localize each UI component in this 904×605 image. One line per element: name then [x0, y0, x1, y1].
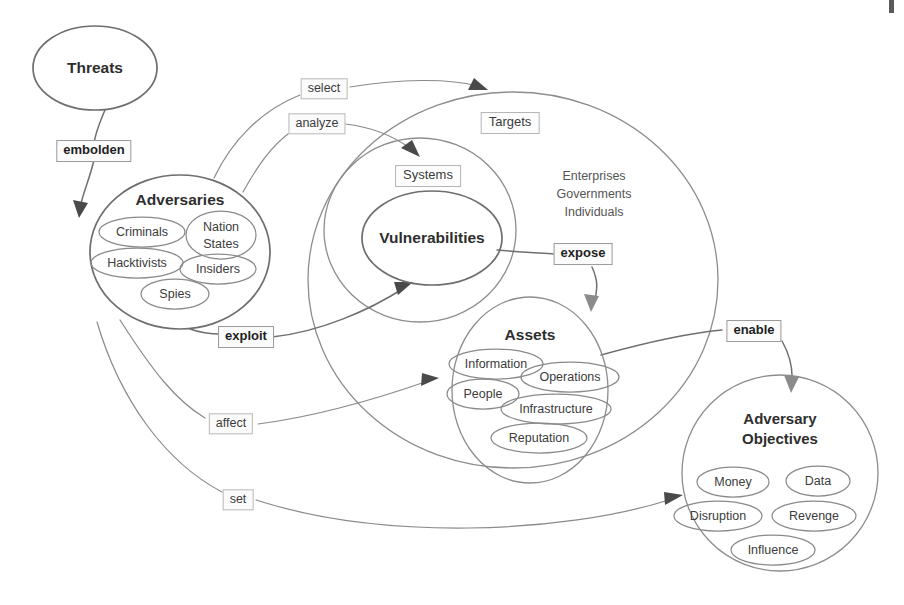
- edge-enable-arrowhead: [784, 375, 799, 393]
- node-label-assets: Assets: [505, 326, 556, 344]
- edge-embolden-arrowhead: [73, 200, 88, 218]
- edge-label-exploit[interactable]: exploit: [218, 326, 274, 348]
- node-label-adversary: Adversary: [743, 410, 816, 427]
- edge-expose-arrowhead: [584, 294, 599, 312]
- subnode-label-hacktivists: Hacktivists: [107, 256, 167, 270]
- subnode-label-data: Data: [805, 474, 831, 488]
- subnode-label-money: Money: [714, 475, 752, 489]
- scan-artifact-mark: [889, 0, 894, 13]
- target-kinds-text: Enterprises Governments Individuals: [556, 167, 631, 221]
- subnode-label-insiders: Insiders: [196, 262, 240, 276]
- subnode-label-revenge: Revenge: [789, 509, 839, 523]
- subnode-label-spies: Spies: [159, 287, 190, 301]
- target-kind-enterprises: Enterprises: [556, 167, 631, 185]
- node-label-adversaries: Adversaries: [136, 191, 225, 209]
- edge-set-arrowhead: [664, 492, 683, 505]
- node-shape-adversary-objectives[interactable]: [682, 375, 878, 571]
- node-label-targets[interactable]: Targets: [481, 112, 540, 134]
- edge-label-set[interactable]: set: [223, 489, 254, 510]
- edge-label-expose[interactable]: expose: [554, 243, 613, 265]
- subnode-label-people: People: [464, 387, 503, 401]
- edge-label-enable[interactable]: enable: [726, 320, 781, 342]
- edge-select-arrowhead: [468, 78, 488, 90]
- subnode-label-infrastructure: Infrastructure: [519, 402, 593, 416]
- target-kind-governments: Governments: [556, 185, 631, 203]
- edge-label-affect[interactable]: affect: [209, 413, 253, 434]
- edge-affect-path: [120, 320, 428, 424]
- subnode-label-influence: Influence: [748, 543, 799, 557]
- node-shape-targets[interactable]: [308, 92, 718, 468]
- edge-label-analyze[interactable]: analyze: [288, 113, 345, 134]
- subnode-label-operations: Operations: [539, 370, 600, 384]
- subnode-label-disruption: Disruption: [690, 509, 746, 523]
- subnode-label-information: Information: [465, 357, 528, 371]
- diagram-canvas: Threats Adversaries Criminals Nation Sta…: [0, 0, 904, 605]
- edge-label-embolden[interactable]: embolden: [56, 140, 131, 162]
- subnode-label-nation: Nation: [203, 220, 239, 234]
- node-label-vulnerabilities: Vulnerabilities: [379, 229, 484, 247]
- node-label-systems[interactable]: Systems: [395, 165, 461, 187]
- subnode-label-reputation: Reputation: [509, 431, 569, 445]
- subnode-label-states: States: [203, 237, 238, 251]
- edge-analyze-arrowhead: [401, 140, 420, 157]
- edge-set-path: [97, 322, 672, 528]
- subnode-shape-nation-states[interactable]: [186, 211, 256, 259]
- diagram-vector-layer: [0, 0, 904, 605]
- node-label-threats: Threats: [67, 59, 123, 77]
- edge-label-select[interactable]: select: [301, 78, 348, 99]
- target-kind-individuals: Individuals: [556, 203, 631, 221]
- node-label-objectives: Objectives: [742, 430, 818, 447]
- edge-affect-arrowhead: [421, 373, 439, 386]
- subnode-label-criminals: Criminals: [116, 225, 168, 239]
